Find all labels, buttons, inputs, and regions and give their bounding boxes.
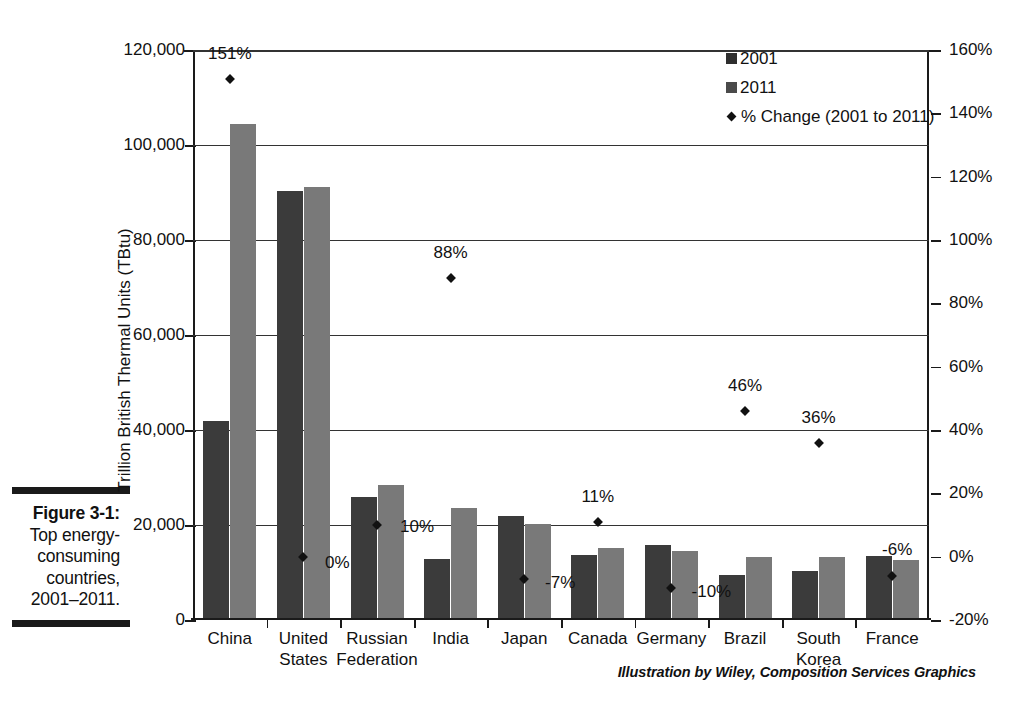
y-axis-right-tick-label: 140% (949, 103, 992, 123)
percent-change-label: 88% (434, 243, 468, 263)
percent-change-label: -7% (545, 573, 575, 593)
x-axis-tick (855, 620, 857, 628)
diamond-icon (727, 112, 737, 122)
chart-legend: 20012011% Change (2001 to 2011) (726, 44, 926, 131)
x-axis-tick (635, 620, 637, 628)
legend-item-label: % Change (2001 to 2011) (741, 107, 934, 127)
percent-change-label: 10% (400, 517, 434, 537)
percent-change-label: 0% (325, 553, 350, 573)
y-axis-title: Trillion British Thermal Units (TBtu) (115, 150, 135, 570)
percent-change-marker (298, 552, 308, 562)
y-axis-left-tick (185, 620, 196, 622)
percent-change-marker (372, 520, 382, 530)
illustration-credit: Illustration by Wiley, Composition Servi… (0, 664, 976, 680)
y-axis-right: -20%0%20%40%60%80%100%120%140%160% (931, 50, 1031, 620)
x-axis-tick (561, 620, 563, 628)
x-axis-category-label: Brazil (724, 628, 767, 649)
y-axis-right-tick (931, 493, 941, 495)
percent-change-marker (593, 517, 603, 527)
percent-change-marker (887, 571, 897, 581)
y-axis-right-tick (931, 620, 941, 622)
x-axis-category-label: Germany (636, 628, 706, 649)
x-axis-tick (708, 620, 710, 628)
y-axis-right-tick (931, 367, 941, 369)
y-axis-left-tick-label: 20,000 (99, 515, 185, 535)
y-axis-right-tick-label: 20% (949, 483, 983, 503)
legend-item: 2001 (726, 44, 926, 73)
legend-item: 2011 (726, 73, 926, 102)
y-axis-right-tick (931, 430, 941, 432)
x-axis-tick (267, 620, 269, 628)
percent-change-label: 36% (802, 408, 836, 428)
x-axis-tick (782, 620, 784, 628)
percent-change-marker (446, 273, 456, 283)
legend-item-label: 2011 (740, 78, 777, 98)
percent-change-label: -10% (692, 582, 732, 602)
y-axis-right-tick (931, 557, 941, 559)
y-axis-right-tick (931, 240, 941, 242)
x-axis-tick (414, 620, 416, 628)
y-axis-left-tick-label: 40,000 (99, 420, 185, 440)
x-axis-category-label: India (432, 628, 469, 649)
y-axis-right-tick-label: 160% (949, 40, 992, 60)
x-axis-category-label: China (208, 628, 252, 649)
x-axis-category-label: France (866, 628, 919, 649)
percent-change-marker (519, 574, 529, 584)
y-axis-right-tick (931, 177, 941, 179)
y-axis-right-tick-label: 0% (949, 547, 974, 567)
y-axis-right-tick-label: 40% (949, 420, 983, 440)
percent-change-marker (740, 406, 750, 416)
percent-change-label: -6% (882, 540, 912, 560)
x-axis-tick (487, 620, 489, 628)
x-axis-tick (340, 620, 342, 628)
percent-change-label: 11% (581, 487, 614, 507)
legend-swatch-icon (726, 53, 737, 64)
y-axis-right-tick-label: 60% (949, 357, 983, 377)
percent-change-marker (225, 74, 235, 84)
y-axis-left-tick-label: 80,000 (99, 230, 185, 250)
chart-plot-area: 151%0%10%88%-7%11%-10%46%36%-6% (193, 50, 929, 620)
percent-change-marker (814, 438, 824, 448)
y-axis-left-tick-label: 120,000 (99, 40, 185, 60)
legend-item-label: 2001 (740, 49, 778, 69)
y-axis-left-tick-label: 100,000 (99, 135, 185, 155)
x-axis-category-label: Canada (568, 628, 628, 649)
y-axis-right-tick-label: 120% (949, 167, 992, 187)
y-axis-left-tick-label: 60,000 (99, 325, 185, 345)
y-axis-left: Trillion British Thermal Units (TBtu) 02… (93, 50, 185, 620)
percent-change-label: 151% (208, 44, 251, 64)
y-axis-right-tick-label: -20% (949, 610, 989, 630)
legend-swatch-icon (726, 82, 737, 93)
percent-change-markers: 151%0%10%88%-7%11%-10%46%36%-6% (193, 50, 929, 620)
plot-cap-top-right (928, 50, 938, 52)
percent-change-label: 46% (728, 376, 762, 396)
y-axis-right-tick (931, 303, 941, 305)
y-axis-left-tick-label: 0 (99, 610, 185, 630)
x-axis-category-label: Japan (501, 628, 547, 649)
legend-item: % Change (2001 to 2011) (726, 102, 926, 131)
percent-change-marker (666, 583, 676, 593)
y-axis-right-tick-label: 80% (949, 293, 983, 313)
y-axis-right-tick-label: 100% (949, 230, 992, 250)
